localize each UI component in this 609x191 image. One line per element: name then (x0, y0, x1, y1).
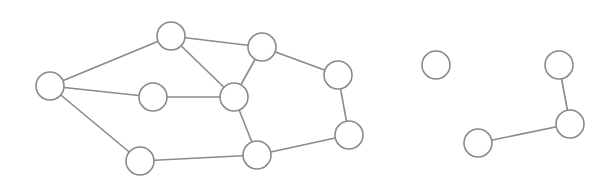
graph-node-n7 (335, 121, 363, 149)
graph-edge-n1-n4 (50, 86, 153, 97)
graph-node-n3 (248, 33, 276, 61)
graph-diagram (0, 0, 609, 191)
graph-node-n4 (139, 83, 167, 111)
graph-node-n12 (556, 110, 584, 138)
graph-node-n1 (36, 72, 64, 100)
graph-edge-n1-n2 (50, 36, 171, 86)
graph-node-n13 (464, 129, 492, 157)
graph-node-n2 (157, 22, 185, 50)
graph-edge-n1-n8 (50, 86, 140, 161)
graph-node-n5 (220, 83, 248, 111)
graph-node-n9 (243, 141, 271, 169)
graph-node-n10 (422, 51, 450, 79)
graph-node-n11 (545, 51, 573, 79)
graph-edge-n8-n9 (140, 155, 257, 161)
graph-node-n6 (324, 61, 352, 89)
graph-node-n8 (126, 147, 154, 175)
graph-nodes (36, 22, 584, 175)
